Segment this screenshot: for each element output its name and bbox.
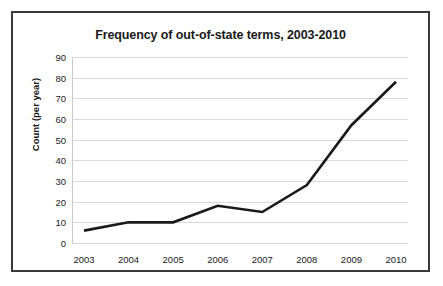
x-axis-tick-label: 2003	[73, 254, 94, 265]
gridline	[72, 243, 408, 244]
y-axis-tick-label: 60	[55, 114, 66, 125]
y-axis-tick-label: 70	[55, 93, 66, 104]
chart-frame: Frequency of out-of-state terms, 2003-20…	[11, 11, 430, 272]
y-axis-tick-label: 80	[55, 72, 66, 83]
x-axis-tick-label: 2009	[341, 254, 362, 265]
y-axis-tick-label: 0	[61, 238, 66, 249]
y-axis-tick-label: 40	[55, 155, 66, 166]
y-axis-tick-label: 50	[55, 134, 66, 145]
y-axis-tick-label: 90	[55, 52, 66, 63]
x-axis-tick-label: 2004	[118, 254, 139, 265]
plot-area: 9080706050403020100 20032004200520062007…	[72, 57, 408, 243]
y-axis-title: Count (per year)	[30, 55, 41, 175]
y-axis-tick-label: 30	[55, 176, 66, 187]
chart-title: Frequency of out-of-state terms, 2003-20…	[13, 28, 428, 42]
x-axis-tick-label: 2008	[296, 254, 317, 265]
line-series	[72, 57, 408, 243]
x-axis-tick-label: 2005	[163, 254, 184, 265]
y-axis-tick-label: 20	[55, 196, 66, 207]
x-axis-tick-label: 2010	[385, 254, 406, 265]
x-axis-tick-label: 2007	[252, 254, 273, 265]
y-axis-tick-label: 10	[55, 217, 66, 228]
series-polyline	[84, 82, 396, 231]
x-axis-tick-label: 2006	[207, 254, 228, 265]
